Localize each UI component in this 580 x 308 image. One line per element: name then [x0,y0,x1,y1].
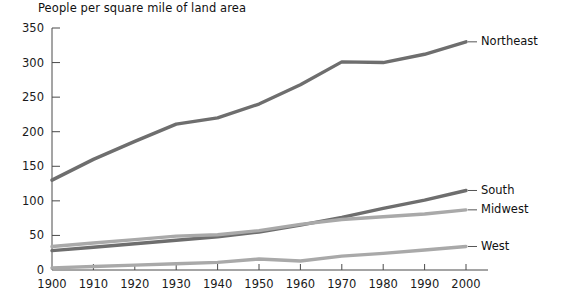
x-tick-label: 2000 [451,277,480,291]
line-chart-plot: 050100150200250300350 190019101920193019… [0,0,580,308]
series-label-northeast: Northeast [481,34,538,48]
x-tick-label: 1990 [410,277,439,291]
y-tick-label: 200 [22,125,44,139]
y-axis: 050100150200250300350 [22,21,60,277]
y-tick-label: 250 [22,90,44,104]
y-tick-label: 350 [22,21,44,35]
y-tick-label: 50 [29,228,44,242]
y-tick-label: 150 [22,159,44,173]
x-tick-label: 1900 [37,277,66,291]
x-tick-label: 1920 [120,277,149,291]
series-lines [52,42,466,268]
series-label-midwest: Midwest [481,202,529,216]
x-tick-label: 1960 [286,277,315,291]
series-label-west: West [481,239,510,253]
x-tick-label: 1970 [327,277,356,291]
x-axis: 1900191019201930194019501960197019801990… [37,264,488,291]
series-label-south: South [481,183,514,197]
series-labels: NortheastSouthMidwestWest [468,34,538,253]
x-tick-label: 1940 [203,277,232,291]
chart-container: People per square mile of land area 0501… [0,0,580,308]
series-line-northeast [52,42,466,180]
x-tick-label: 1980 [369,277,398,291]
series-line-midwest [52,210,466,247]
x-tick-label: 1910 [79,277,108,291]
x-tick-label: 1950 [244,277,273,291]
y-tick-label: 100 [22,194,44,208]
x-tick-label: 1930 [162,277,191,291]
y-tick-label: 0 [37,263,44,277]
y-tick-label: 300 [22,56,44,70]
